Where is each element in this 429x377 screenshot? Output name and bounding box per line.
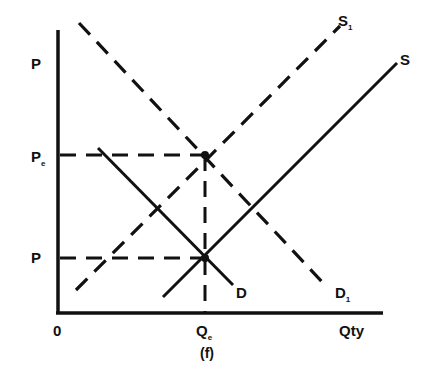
caption: (f) <box>200 346 214 360</box>
x-axis-label: Qty <box>339 323 364 338</box>
curve-label-d: D <box>236 285 247 300</box>
curve-label-s1: S1 <box>338 13 352 32</box>
tick-label-pe: Pe <box>31 149 45 168</box>
curve-label-s1-sub: 1 <box>348 23 352 32</box>
tick-label-qe-main: Q <box>196 322 208 339</box>
equilibrium-point-upper <box>201 151 209 159</box>
tick-label-qe: Qe <box>196 323 212 342</box>
demand-curve-d <box>98 148 233 285</box>
curve-label-d1: D1 <box>335 285 350 304</box>
curve-label-d1-main: D <box>335 284 346 301</box>
curve-label-d1-sub: 1 <box>346 295 350 304</box>
supply-curve-s <box>163 63 397 297</box>
curve-label-s: S <box>400 52 410 67</box>
supply-demand-diagram <box>0 0 429 377</box>
tick-label-pe-sub: e <box>41 159 45 168</box>
tick-label-pe-main: P <box>31 148 41 165</box>
curve-label-s1-main: S <box>338 12 348 29</box>
tick-label-qe-sub: e <box>208 333 212 342</box>
equilibrium-point-lower <box>201 254 209 262</box>
y-axis-label: P <box>31 56 41 71</box>
origin-label: 0 <box>53 323 61 338</box>
tick-label-p: P <box>31 250 41 265</box>
